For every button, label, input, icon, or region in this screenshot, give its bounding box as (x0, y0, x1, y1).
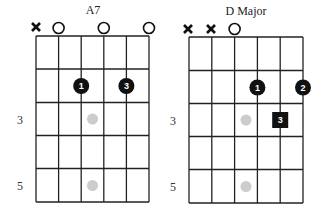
finger-dot: 1 (73, 78, 89, 94)
svg-text:3: 3 (278, 115, 283, 125)
muted-string-icon (207, 25, 215, 33)
fret-number-label: 5 (17, 179, 23, 193)
open-string-icon (229, 24, 240, 35)
chord-diagram-d-major: D Major 3 5 (170, 4, 311, 203)
svg-text:1: 1 (255, 83, 260, 93)
finger-dot: 2 (295, 80, 311, 96)
position-marker-dot (87, 114, 98, 125)
chord-title: D Major (226, 4, 267, 18)
muted-string-icon (184, 25, 192, 33)
finger-dot: 1 (249, 80, 265, 96)
chord-title: A7 (86, 3, 101, 17)
position-marker-dot (241, 181, 252, 192)
fret-number-label: 5 (170, 180, 176, 194)
svg-text:2: 2 (300, 83, 305, 93)
muted-string-icon (32, 23, 40, 31)
finger-dot: 3 (118, 78, 134, 94)
open-string-icon (53, 23, 64, 34)
chord-diagram-a7: A7 3 5 (17, 3, 155, 202)
fret-number-label: 3 (17, 113, 23, 127)
svg-text:3: 3 (124, 81, 129, 91)
finger-square: 3 (272, 112, 288, 128)
open-string-icon (98, 23, 109, 34)
svg-text:1: 1 (79, 81, 84, 91)
position-marker-dot (87, 180, 98, 191)
open-string-icon (144, 23, 155, 34)
fret-number-label: 3 (170, 114, 176, 128)
position-marker-dot (241, 115, 252, 126)
